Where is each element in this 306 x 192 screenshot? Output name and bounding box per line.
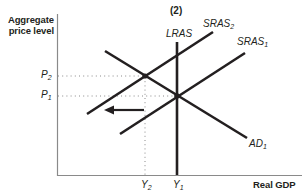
equilibrium-point-e2 [142, 73, 147, 78]
equilibrium-point-e1 [174, 93, 180, 99]
ad1-label: AD1 [249, 139, 267, 150]
sras2-label-sub: 2 [230, 23, 234, 30]
ad1-label-text: AD [249, 138, 263, 149]
ad1-label-sub: 1 [263, 143, 267, 150]
as-ad-diagram: Aggregate price level (2) LRAS SRAS2 SRA… [0, 0, 306, 192]
y2-label: Y2 [141, 180, 152, 191]
p2-label-text: P [41, 69, 48, 80]
sras2-label: SRAS2 [203, 19, 234, 30]
x-axis-title: Real GDP [253, 180, 296, 190]
lras-label: LRAS [166, 29, 192, 39]
sras1-label: SRAS1 [237, 37, 268, 48]
p2-label: P2 [41, 70, 52, 81]
sras2-curve [87, 32, 213, 114]
p1-label: P1 [41, 90, 52, 101]
sras2-label-text: SRAS [203, 18, 230, 29]
y2-label-text: Y [141, 179, 148, 190]
y1-label: Y1 [173, 180, 184, 191]
sras1-label-sub: 1 [264, 41, 268, 48]
left-arrow-icon [104, 106, 144, 115]
y-axis-title: Aggregate price level [6, 15, 54, 35]
p1-label-text: P [41, 89, 48, 100]
p2-label-sub: 2 [48, 74, 52, 81]
y2-label-sub: 2 [148, 184, 152, 191]
y1-label-sub: 1 [180, 184, 184, 191]
y-axis-title-line2: price level [6, 26, 54, 36]
panel-label: (2) [170, 6, 182, 16]
sras1-label-text: SRAS [237, 36, 264, 47]
p1-label-sub: 1 [48, 94, 52, 101]
y-axis-title-line1: Aggregate [6, 15, 54, 25]
sras1-curve [120, 53, 245, 134]
y1-label-text: Y [173, 179, 180, 190]
